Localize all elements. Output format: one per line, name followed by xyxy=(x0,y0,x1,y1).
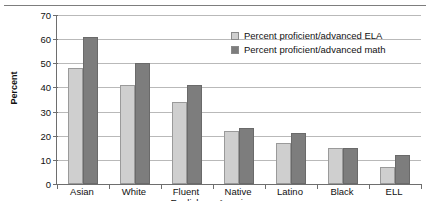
x-axis-category-label-line: White xyxy=(108,187,160,198)
bar-math xyxy=(395,155,410,184)
bar-math xyxy=(291,133,306,184)
x-axis-tick xyxy=(421,184,422,189)
x-axis-category-label-line: English xyxy=(160,198,212,202)
x-axis-category-label-line: Black xyxy=(316,187,368,198)
bar-ela xyxy=(120,85,135,184)
bar-math xyxy=(187,85,202,184)
bar-math xyxy=(239,128,254,184)
gridline xyxy=(57,15,421,16)
legend-item-math: Percent proficient/advanced math xyxy=(231,44,386,55)
y-axis-tick-label: 0 xyxy=(46,179,51,190)
legend-swatch-ela-icon xyxy=(231,32,239,40)
y-axis-tick-label: 30 xyxy=(40,106,51,117)
x-axis-category-label: ELL xyxy=(368,187,420,198)
x-axis-category-label-line: Fluent xyxy=(160,187,212,198)
x-axis-category-label-line: Native xyxy=(212,187,264,198)
bar-ela xyxy=(328,148,343,184)
bar-math xyxy=(343,148,358,184)
y-axis-tick xyxy=(53,87,58,88)
bar-ela xyxy=(380,167,395,184)
x-axis-line xyxy=(57,184,421,185)
x-axis-category-label: Black xyxy=(316,187,368,198)
x-axis-category-label-line: Latino xyxy=(264,187,316,198)
legend-item-ela: Percent proficient/advanced ELA xyxy=(231,30,386,41)
x-axis-category-label: FluentEnglish xyxy=(160,187,212,201)
x-axis-category-label-line: American xyxy=(212,198,264,202)
y-axis-tick-label: 10 xyxy=(40,154,51,165)
y-axis-tick xyxy=(53,63,58,64)
y-axis-tick xyxy=(53,112,58,113)
y-axis-tick-label: 20 xyxy=(40,130,51,141)
bar-ela xyxy=(68,68,83,184)
legend-label-math: Percent proficient/advanced math xyxy=(244,44,386,55)
bar-math xyxy=(135,63,150,184)
y-axis-tick-label: 60 xyxy=(40,34,51,45)
y-axis-tick xyxy=(53,39,58,40)
gridline xyxy=(57,112,421,113)
y-axis-tick xyxy=(53,15,58,16)
x-axis-category-label-line: Asian xyxy=(56,187,108,198)
y-axis-tick-label: 70 xyxy=(40,10,51,21)
bar-ela xyxy=(276,143,291,184)
x-axis-category-label: NativeAmerican xyxy=(212,187,264,201)
y-axis-tick-label: 40 xyxy=(40,82,51,93)
legend-swatch-math-icon xyxy=(231,46,239,54)
x-axis-category-label: Latino xyxy=(264,187,316,198)
chart-legend: Percent proficient/advanced ELA Percent … xyxy=(228,28,389,58)
x-axis-category-label-line: ELL xyxy=(368,187,420,198)
gridline xyxy=(57,63,421,64)
y-axis-title: Percent xyxy=(9,48,19,128)
gridline xyxy=(57,87,421,88)
x-axis-category-label: Asian xyxy=(56,187,108,198)
legend-label-ela: Percent proficient/advanced ELA xyxy=(244,30,382,41)
y-axis-tick xyxy=(53,136,58,137)
bar-ela xyxy=(224,131,239,184)
y-axis-tick xyxy=(53,160,58,161)
bar-ela xyxy=(172,102,187,184)
bar-chart-figure: Percent 010203040506070 Percent proficie… xyxy=(0,0,430,201)
figure-top-rule xyxy=(4,5,426,6)
bar-math xyxy=(83,37,98,184)
x-axis-category-label: White xyxy=(108,187,160,198)
y-axis-tick-label: 50 xyxy=(40,58,51,69)
